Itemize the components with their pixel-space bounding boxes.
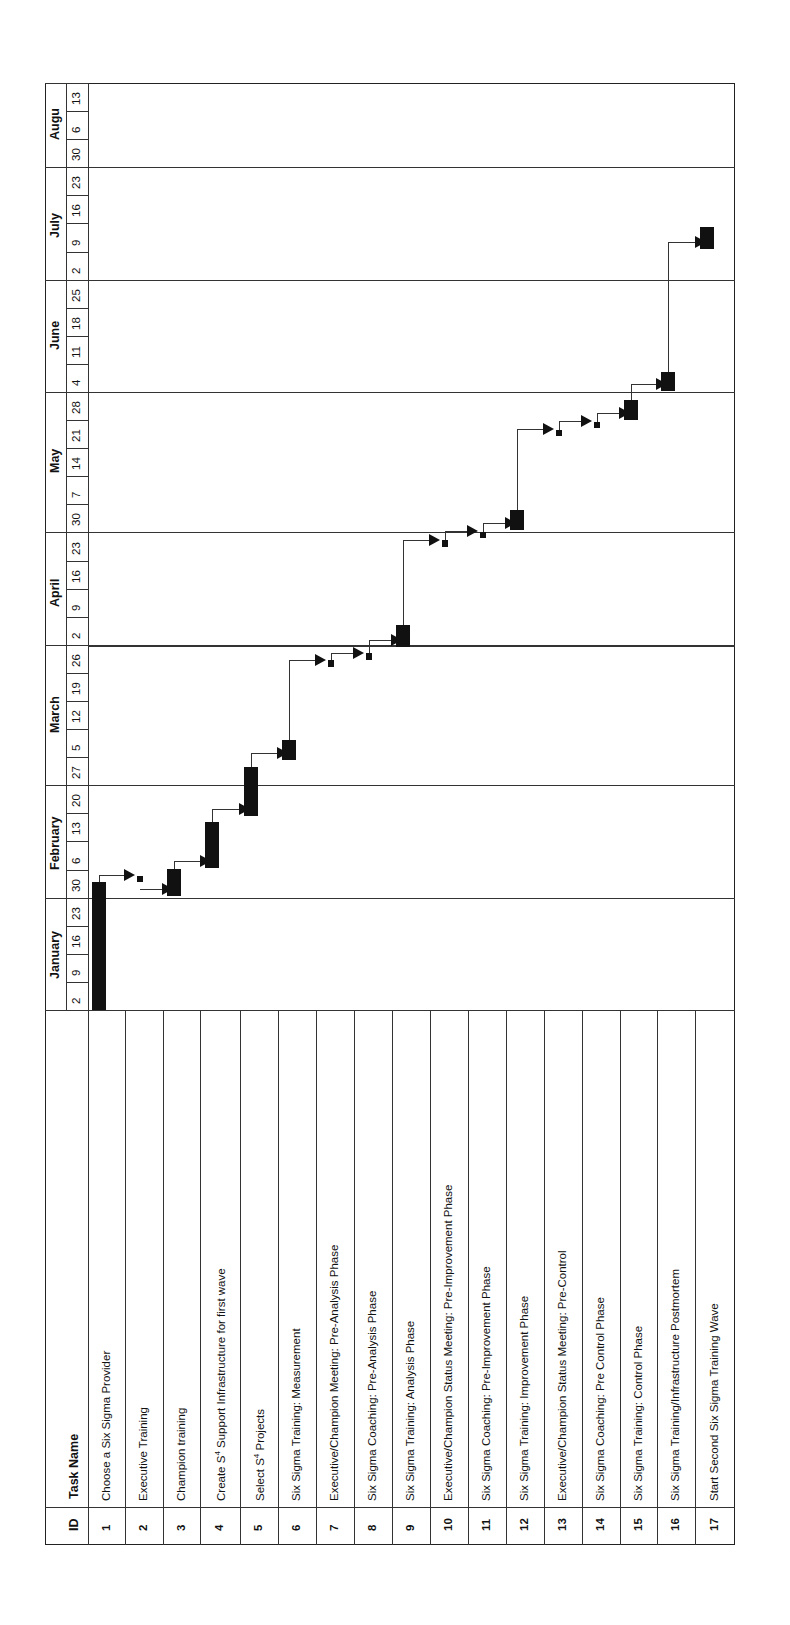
month-gridline — [88, 392, 735, 393]
month-band-divider — [66, 83, 67, 1010]
dependency-arrow-icon — [429, 534, 440, 546]
dependency-arrow-icon — [315, 654, 326, 666]
dependency-link — [289, 660, 290, 740]
task-name: Six Sigma Training: Improvement Phase — [518, 1296, 530, 1501]
week-tick-label: 26 — [70, 654, 82, 667]
task-name: Six Sigma Coaching: Pre Control Phase — [594, 1297, 606, 1501]
week-divider — [66, 729, 88, 730]
task-id: 5 — [252, 1525, 264, 1531]
week-tick-label: 9 — [70, 970, 82, 976]
row-divider — [506, 1010, 507, 1545]
task-bar — [205, 822, 219, 868]
dependency-arrow-icon — [353, 647, 364, 659]
dependency-link — [483, 523, 484, 532]
week-divider — [66, 448, 88, 449]
row-divider — [163, 1010, 164, 1545]
task-name: Champion training — [175, 1408, 187, 1501]
dependency-link — [597, 413, 620, 414]
week-divider — [66, 926, 88, 927]
week-divider — [66, 841, 88, 842]
week-tick-label: 11 — [70, 346, 82, 358]
dependency-link — [251, 753, 278, 754]
month-divider — [45, 280, 66, 281]
dependency-link — [369, 640, 392, 641]
task-name: Create S4 Support Infrastructure for fir… — [213, 1268, 227, 1501]
dependency-arrow-icon — [543, 423, 554, 435]
dependency-link — [140, 889, 163, 890]
week-tick-label: 18 — [70, 317, 82, 330]
month-gridline — [88, 167, 735, 168]
week-tick-label: 30 — [70, 514, 82, 527]
week-tick-label: 20 — [70, 795, 82, 808]
task-name: Six Sigma Training: Measurement — [290, 1328, 302, 1501]
week-tick-label: 28 — [70, 401, 82, 414]
week-tick-label: 23 — [70, 907, 82, 920]
month-divider — [45, 392, 66, 393]
week-tick-label: 21 — [70, 429, 82, 442]
month-label: Augu — [48, 108, 62, 140]
dependency-link — [331, 653, 332, 660]
task-id: 8 — [366, 1525, 378, 1531]
week-divider — [66, 589, 88, 590]
row-divider — [544, 1010, 545, 1545]
task-name: Select S4 Projects — [252, 1409, 266, 1501]
month-label: April — [48, 578, 62, 606]
week-band-divider — [88, 83, 89, 1545]
task-bar — [594, 422, 600, 428]
month-label: May — [48, 449, 62, 473]
week-divider — [66, 701, 88, 702]
row-divider — [354, 1010, 355, 1545]
dependency-arrow-icon — [581, 415, 592, 427]
week-tick-label: 9 — [70, 604, 82, 610]
week-tick-label: 2 — [70, 632, 82, 638]
week-tick-label: 25 — [70, 289, 82, 302]
week-divider — [66, 223, 88, 224]
task-id: 14 — [594, 1518, 606, 1531]
month-divider — [45, 532, 66, 533]
task-name-header: Task Name — [67, 1434, 81, 1499]
task-id: 17 — [708, 1518, 720, 1531]
month-divider — [45, 785, 66, 786]
week-divider — [66, 785, 88, 786]
dependency-link — [99, 875, 100, 882]
task-name: Choose a Six Sigma Provider — [100, 1351, 112, 1501]
week-tick-label: 2 — [70, 998, 82, 1004]
task-bar — [167, 869, 181, 896]
month-gridline — [88, 532, 735, 533]
month-gridline — [88, 785, 735, 786]
dependency-link — [212, 809, 213, 822]
task-name: Six Sigma Coaching: Pre-Analysis Phase — [366, 1291, 378, 1501]
week-tick-label: 16 — [70, 205, 82, 218]
task-name: Start Second Six Sigma Training Wave — [708, 1303, 720, 1501]
week-tick-label: 19 — [70, 682, 82, 695]
week-divider — [66, 813, 88, 814]
dependency-link — [517, 429, 544, 430]
month-label: January — [48, 931, 62, 979]
task-name: Executive/Champion Meeting: Pre-Analysis… — [328, 1245, 340, 1501]
week-divider — [66, 280, 88, 281]
week-tick-label: 12 — [70, 710, 82, 723]
week-divider — [66, 476, 88, 477]
dependency-link — [668, 242, 669, 372]
task-name: Six Sigma Training: Control Phase — [632, 1326, 644, 1501]
row-divider — [316, 1010, 317, 1545]
task-id: 2 — [137, 1525, 149, 1531]
week-tick-label: 13 — [70, 823, 82, 836]
dependency-link — [369, 640, 370, 653]
week-divider — [66, 308, 88, 309]
row-divider — [125, 1010, 126, 1545]
task-bar — [137, 876, 143, 882]
dependency-link — [631, 384, 632, 400]
task-id: 9 — [404, 1525, 416, 1531]
week-divider — [66, 364, 88, 365]
week-divider — [66, 195, 88, 196]
dependency-link — [331, 653, 354, 654]
week-tick-label: 9 — [70, 239, 82, 245]
task-bar — [480, 532, 486, 538]
task-id: 1 — [100, 1525, 112, 1531]
week-tick-label: 23 — [70, 177, 82, 190]
week-divider — [66, 982, 88, 983]
task-bar — [396, 625, 410, 647]
dependency-link — [174, 861, 202, 862]
task-id: 3 — [175, 1525, 187, 1531]
